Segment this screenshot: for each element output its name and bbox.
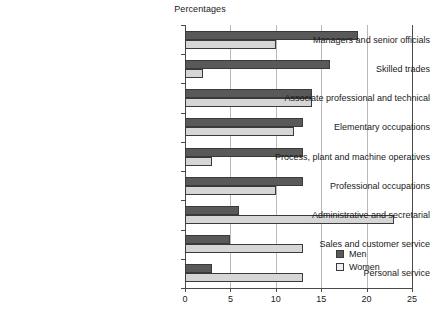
x-tick-label-20: 20 xyxy=(362,294,372,304)
category-label-1: Skilled trades xyxy=(254,64,434,74)
category-label-2: Associate professional and technical xyxy=(254,93,434,103)
x-tick-label-10: 10 xyxy=(271,294,281,304)
y-tick-mark-1 xyxy=(181,54,185,55)
bar-men-8 xyxy=(185,264,212,273)
y-tick-mark-3 xyxy=(181,113,185,114)
category-label-4: Process, plant and machine operatives xyxy=(254,152,434,162)
x-tick-label-15: 15 xyxy=(316,294,326,304)
legend-swatch-men-icon xyxy=(336,250,344,258)
legend-label-women: Women xyxy=(349,262,380,272)
x-tick-mark-10 xyxy=(276,288,277,292)
x-tick-mark-25 xyxy=(412,288,413,292)
category-label-3: Elementary occupations xyxy=(254,122,434,132)
x-tick-label-0: 0 xyxy=(182,294,187,304)
legend-swatch-women-icon xyxy=(336,263,344,271)
bar-chart: Percentages 0510152025 Managers and seni… xyxy=(0,0,434,317)
x-tick-mark-5 xyxy=(230,288,231,292)
x-axis-line xyxy=(185,288,413,289)
bar-men-7 xyxy=(185,235,230,244)
bar-women-4 xyxy=(185,157,212,166)
chart-title: Percentages xyxy=(0,4,400,14)
y-tick-mark-7 xyxy=(181,230,185,231)
category-label-5: Professional occupations xyxy=(254,181,434,191)
bar-men-6 xyxy=(185,206,239,215)
bar-women-1 xyxy=(185,69,203,78)
y-tick-mark-4 xyxy=(181,142,185,143)
x-tick-mark-20 xyxy=(367,288,368,292)
y-tick-mark-0 xyxy=(181,25,185,26)
y-tick-mark-2 xyxy=(181,83,185,84)
y-tick-mark-6 xyxy=(181,200,185,201)
legend-label-men: Men xyxy=(349,249,367,259)
legend-item-men: Men xyxy=(336,247,380,260)
category-label-0: Managers and senior officials xyxy=(254,35,434,45)
y-tick-mark-end xyxy=(181,288,185,289)
x-tick-mark-0 xyxy=(185,288,186,292)
category-label-6: Administrative and secretarial xyxy=(254,210,434,220)
y-tick-mark-8 xyxy=(181,259,185,260)
chart-legend: Men Women xyxy=(336,247,380,273)
x-tick-mark-15 xyxy=(321,288,322,292)
legend-item-women: Women xyxy=(336,260,380,273)
x-tick-label-5: 5 xyxy=(228,294,233,304)
x-tick-label-25: 25 xyxy=(407,294,417,304)
y-tick-mark-5 xyxy=(181,171,185,172)
